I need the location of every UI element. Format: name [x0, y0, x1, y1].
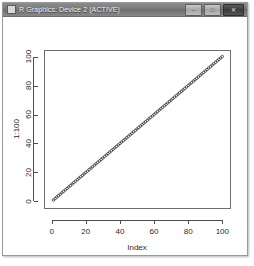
close-button[interactable]: ✕ [223, 4, 244, 16]
y-axis-title: 1:100 [12, 118, 21, 139]
y-tick-label: 80 [25, 81, 34, 90]
minimize-button[interactable]: – [185, 4, 202, 16]
y-tick-label: 40 [25, 138, 34, 147]
y-tick-label: 100 [25, 49, 34, 63]
r-graphics-window: R Graphics: Device 2 (ACTIVE) – □ ✕ 0204… [2, 2, 248, 256]
x-axis-title: Index [127, 243, 147, 252]
x-tick-label: 0 [49, 227, 54, 236]
r-plot-canvas: 020406080100020406080100Index1:100 [3, 17, 247, 255]
close-icon: ✕ [231, 7, 236, 13]
window-controls: – □ ✕ [185, 4, 244, 16]
plot-client-area: 020406080100020406080100Index1:100 [3, 17, 247, 254]
y-tick-label: 20 [25, 167, 34, 176]
x-tick-label: 100 [216, 227, 230, 236]
y-tick-label: 60 [25, 110, 34, 119]
x-tick-label: 40 [115, 227, 124, 236]
scatter-plot: 020406080100020406080100Index1:100 [3, 17, 247, 255]
app-square-icon [7, 5, 16, 14]
y-tick-label: 0 [25, 199, 34, 204]
maximize-button[interactable]: □ [204, 4, 221, 16]
minimize-icon: – [192, 7, 195, 13]
x-tick-label: 20 [81, 227, 90, 236]
window-titlebar[interactable]: R Graphics: Device 2 (ACTIVE) – □ ✕ [3, 3, 247, 17]
x-tick-label: 60 [150, 227, 159, 236]
maximize-icon: □ [211, 7, 215, 13]
x-tick-label: 80 [184, 227, 193, 236]
window-title: R Graphics: Device 2 (ACTIVE) [19, 6, 185, 14]
data-series-1-100 [52, 55, 223, 201]
